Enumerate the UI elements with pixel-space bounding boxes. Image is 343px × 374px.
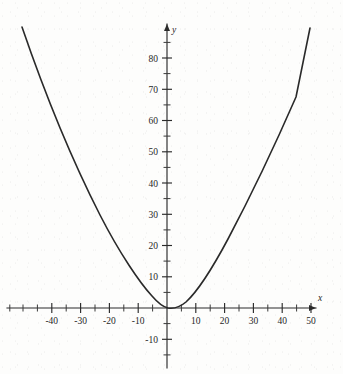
y-tick-label: 60: [149, 116, 159, 126]
x-tick-label: 20: [220, 316, 230, 326]
x-tick-label: -10: [132, 316, 145, 326]
x-tick-label: 30: [249, 316, 259, 326]
x-tick-label: 50: [306, 316, 316, 326]
parabola-figure: -40 -30 -20 -10 10 20 30 40 50 80 70 60 …: [0, 0, 343, 374]
x-tick-label: 10: [191, 316, 201, 326]
y-tick-label: 10: [149, 272, 159, 282]
y-tick-label: 70: [149, 85, 159, 95]
y-axis-label: y: [171, 25, 177, 35]
y-tick-label: 80: [149, 54, 159, 64]
x-tick-label: -20: [103, 316, 116, 326]
label-layer: -40 -30 -20 -10 10 20 30 40 50 80 70 60 …: [0, 0, 343, 374]
y-tick-label: 40: [149, 179, 159, 189]
y-tick-label: -10: [145, 335, 158, 345]
x-tick-label: -30: [74, 316, 87, 326]
y-tick-label: 30: [149, 210, 159, 220]
x-axis-label: x: [317, 293, 323, 303]
y-tick-label: 20: [149, 241, 159, 251]
y-tick-label: 50: [149, 147, 159, 157]
x-tick-label: -40: [45, 316, 58, 326]
x-tick-label: 40: [277, 316, 287, 326]
